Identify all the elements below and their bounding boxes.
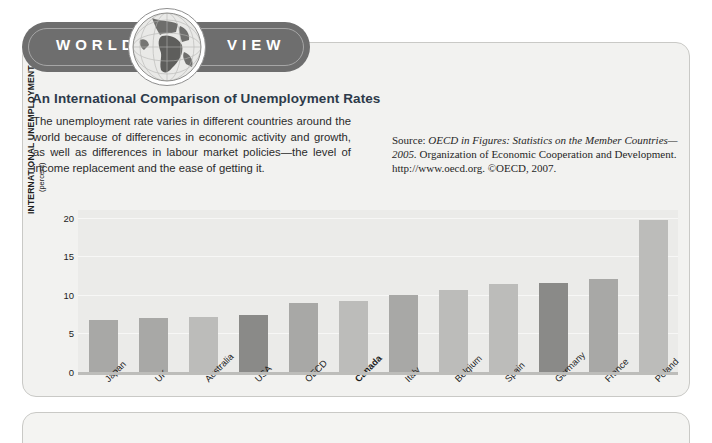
- bar[interactable]: [539, 283, 568, 372]
- source-citation: Source: OECD in Figures: Statistics on t…: [392, 133, 684, 176]
- intro-paragraph: The unemployment rate varies in differen…: [33, 114, 351, 176]
- bar[interactable]: [89, 320, 118, 372]
- bar[interactable]: [589, 279, 618, 372]
- y-tick-label: 10: [63, 289, 74, 300]
- bar-slot[interactable]: USA: [228, 210, 278, 372]
- bar-slot[interactable]: Australia: [178, 210, 228, 372]
- source-rest: Organization of Economic Cooperation and…: [392, 148, 677, 174]
- bar-slot[interactable]: Germany: [528, 210, 578, 372]
- bar-slot[interactable]: Poland: [628, 210, 678, 372]
- bar[interactable]: [239, 315, 268, 372]
- banner-word-world: WORLD: [56, 37, 138, 52]
- y-axis-label-unit: (percent): [37, 64, 46, 192]
- bar[interactable]: [189, 317, 218, 372]
- bar[interactable]: [139, 318, 168, 372]
- bar-slot[interactable]: UK: [128, 210, 178, 372]
- banner-word-view: VIEW: [227, 37, 285, 52]
- bar-slot[interactable]: Japan: [78, 210, 128, 372]
- bar[interactable]: [639, 220, 668, 372]
- plot-area: 05101520 JapanUKAustraliaUSAOECDCanadaIt…: [78, 210, 678, 372]
- bar-slot[interactable]: France: [578, 210, 628, 372]
- x-axis-baseline: [78, 372, 678, 375]
- globe-graphic: [132, 12, 202, 82]
- bar-series: JapanUKAustraliaUSAOECDCanadaItalyBelgiu…: [78, 210, 678, 372]
- source-prefix: Source:: [392, 134, 428, 146]
- globe-icon: [128, 8, 206, 86]
- y-axis-label-main: INTERNATIONAL UNEMPLOYMENT: [26, 64, 36, 214]
- bar-slot[interactable]: OECD: [278, 210, 328, 372]
- bar[interactable]: [339, 301, 368, 372]
- y-tick-label: 5: [69, 328, 74, 339]
- world-view-figure: WORLD VIEW: [0, 0, 712, 443]
- unemployment-bar-chart: INTERNATIONAL UNEMPLOYMENT (percent) 051…: [32, 196, 682, 391]
- y-axis-label: INTERNATIONAL UNEMPLOYMENT (percent): [26, 64, 46, 214]
- bar[interactable]: [289, 303, 318, 372]
- page-title: An International Comparison of Unemploym…: [32, 91, 380, 106]
- bar-slot[interactable]: Canada: [328, 210, 378, 372]
- bar[interactable]: [439, 290, 468, 372]
- y-tick-label: 20: [63, 212, 74, 223]
- y-tick-label: 0: [69, 367, 74, 378]
- bar-slot[interactable]: Spain: [478, 210, 528, 372]
- bar[interactable]: [389, 295, 418, 372]
- bar-slot[interactable]: Italy: [378, 210, 428, 372]
- y-tick-label: 15: [63, 251, 74, 262]
- lower-panel: [22, 412, 690, 443]
- bar[interactable]: [489, 284, 518, 372]
- bar-slot[interactable]: Belgium: [428, 210, 478, 372]
